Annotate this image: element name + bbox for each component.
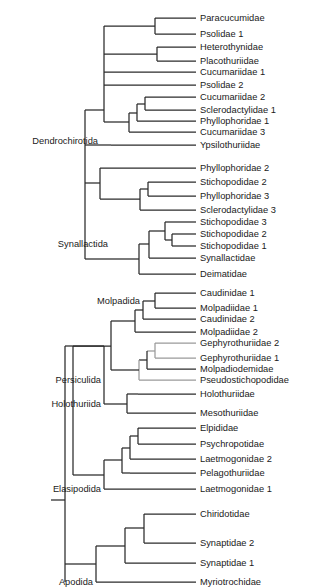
tip-label-t21: Caudinidae 1 <box>200 288 255 298</box>
tip-label-t13: Stichopodidae 2 <box>200 177 267 187</box>
tip-label-t31: Elpididae <box>200 423 238 433</box>
clade-label-c7: Apodida <box>59 577 94 587</box>
tip-label-t1: Paracucumidae <box>200 13 265 23</box>
tip-label-t25: Gephyrothuriidae 2 <box>200 338 279 348</box>
tip-label-t34: Pelagothuriidae <box>200 468 265 478</box>
tip-label-t5: Cucumariidae 1 <box>200 67 265 77</box>
tip-label-layer: ParacucumidaePsolidae 1HeterothynidaePla… <box>200 13 289 587</box>
tip-label-t14: Phyllophoridae 3 <box>200 191 269 201</box>
cladogram-canvas: ParacucumidaePsolidae 1HeterothynidaePla… <box>0 0 323 588</box>
tip-label-t27: Molpadiodemidae <box>200 364 273 374</box>
tip-label-t7: Cucumariidae 2 <box>200 92 265 102</box>
clade-label-c4: Persiculida <box>56 375 102 385</box>
tip-label-t2: Psolidae 1 <box>200 29 243 39</box>
clade-label-c1: Dendrochirotida <box>32 136 98 146</box>
clade-label-c2: Synallactida <box>58 239 109 249</box>
tip-label-t4: Placothuriidae <box>200 56 259 66</box>
tip-label-t8: Sclerodactylidae 1 <box>200 105 276 115</box>
tip-label-t28: Pseudostichopodidae <box>200 375 289 385</box>
clade-label-layer: DendrochirotidaSynallactidaMolpadidaPers… <box>32 136 140 587</box>
tip-label-t36: Chiridotidae <box>200 509 250 519</box>
clade-label-c5: Holothuriida <box>51 399 101 409</box>
tip-label-t12: Phyllophoridae 2 <box>200 163 269 173</box>
tip-label-t19: Synallactidae <box>200 253 255 263</box>
tip-label-t24: Molpadiidae 2 <box>200 327 258 337</box>
tip-label-t26: Gephyrothuriidae 1 <box>200 353 279 363</box>
tip-label-t17: Stichopodidae 2 <box>200 229 267 239</box>
tip-label-t3: Heterothynidae <box>200 42 263 52</box>
tip-label-t33: Laetmogonidae 2 <box>200 454 272 464</box>
tip-label-t15: Sclerodactylidae 3 <box>200 205 276 215</box>
tip-label-t11: Ypsilothuriidae <box>200 140 260 150</box>
tip-label-t9: Phyllophoridae 1 <box>200 116 269 126</box>
tip-label-t20: Deimatidae <box>200 269 247 279</box>
tip-label-t6: Psolidae 2 <box>200 80 243 90</box>
tip-label-t22: Molpadiidae 1 <box>200 303 258 313</box>
tip-label-t23: Caudinidae 2 <box>200 314 255 324</box>
tip-label-t37: Synaptidae 2 <box>200 538 254 548</box>
clade-label-c6: Elasipodida <box>53 484 102 494</box>
tip-label-t16: Stichopodidae 3 <box>200 217 267 227</box>
tip-label-t18: Stichopodidae 1 <box>200 241 267 251</box>
tip-label-t38: Synaptidae 1 <box>200 558 254 568</box>
tip-label-t39: Myriotrochidae <box>200 577 261 587</box>
tip-label-t32: Psychropotidae <box>200 439 264 449</box>
tip-label-t10: Cucumariidae 3 <box>200 127 265 137</box>
tip-label-t29: Holothuriidae <box>200 389 255 399</box>
clade-label-c3: Molpadida <box>97 296 141 306</box>
tip-label-t30: Mesothuriidae <box>200 408 258 418</box>
phylogenetic-tree-figure: ParacucumidaePsolidae 1HeterothynidaePla… <box>0 0 323 588</box>
tip-label-t35: Laetmogonidae 1 <box>200 484 272 494</box>
